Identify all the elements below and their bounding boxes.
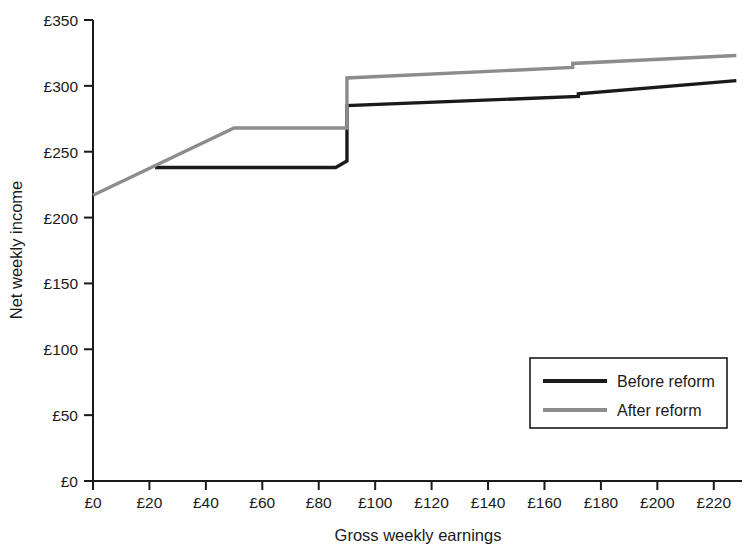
x-tick-label: £0 [84, 494, 102, 511]
x-axis-title: Gross weekly earnings [335, 526, 502, 544]
x-tick-label: £80 [306, 494, 332, 511]
x-tick-label: £220 [697, 494, 732, 511]
y-tick-label: £300 [44, 78, 79, 95]
x-tick-label: £60 [249, 494, 275, 511]
y-tick-label: £0 [61, 473, 79, 490]
x-tick-label: £140 [471, 494, 506, 511]
income-step-chart: £0£50£100£150£200£250£300£350 £0£20£40£6… [0, 0, 748, 554]
y-tick-label: £200 [44, 210, 79, 227]
legend-label-after-reform: After reform [617, 402, 701, 419]
legend-label-before-reform: Before reform [617, 373, 715, 390]
y-tick-label: £250 [44, 144, 79, 161]
y-tick-label: £350 [44, 12, 79, 29]
y-tick-label: £150 [44, 275, 79, 292]
x-tick-label: £20 [136, 494, 162, 511]
x-tick-label: £100 [358, 494, 393, 511]
chart-background [0, 0, 748, 554]
x-tick-label: £120 [414, 494, 449, 511]
x-tick-label: £160 [527, 494, 562, 511]
chart-container: £0£50£100£150£200£250£300£350 £0£20£40£6… [0, 0, 748, 554]
y-axis-title: Net weekly income [7, 181, 25, 319]
x-tick-label: £40 [193, 494, 219, 511]
y-tick-label: £100 [44, 341, 79, 358]
y-tick-label: £50 [52, 407, 78, 424]
x-tick-label: £200 [640, 494, 675, 511]
x-tick-label: £180 [584, 494, 619, 511]
chart-legend: Before reform After reform [530, 358, 727, 428]
